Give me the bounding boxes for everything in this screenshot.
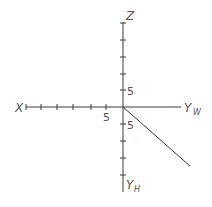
yh-axis-tick-label-5: 5: [127, 119, 134, 132]
z-axis-tick-label-5: 5: [127, 85, 134, 98]
x-axis-tick-label-5: 5: [103, 111, 110, 124]
x-axis-label: X: [14, 101, 24, 115]
svg-text:H: H: [134, 185, 140, 194]
svg-text:Y: Y: [184, 101, 193, 115]
projection-axes-diagram: Z X Y W Y H 5 5 5: [0, 0, 212, 207]
diagonal-line: [123, 107, 190, 166]
yh-axis-label: Y H: [126, 178, 140, 194]
yw-axis-label: Y W: [184, 101, 202, 117]
svg-text:W: W: [193, 108, 202, 117]
z-axis-label: Z: [125, 9, 135, 23]
